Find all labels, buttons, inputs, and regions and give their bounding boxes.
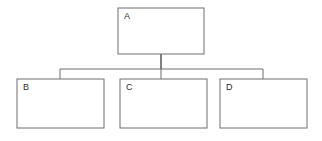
node-b-label: B [23, 82, 29, 92]
connector-group [60, 54, 263, 79]
node-a[interactable]: A [118, 8, 204, 54]
node-a-box[interactable] [118, 8, 204, 54]
node-b-box[interactable] [17, 79, 104, 128]
node-a-label: A [124, 11, 130, 21]
node-b[interactable]: B [17, 79, 104, 128]
node-d-label: D [226, 82, 233, 92]
node-c-label: C [126, 82, 133, 92]
diagram-canvas: A B C D [0, 0, 322, 141]
node-d[interactable]: D [220, 79, 307, 128]
connector-a-to-b [60, 54, 161, 79]
hierarchy-diagram: A B C D [0, 0, 322, 141]
node-c[interactable]: C [120, 79, 207, 128]
connector-a-to-d [161, 54, 263, 79]
node-c-box[interactable] [120, 79, 207, 128]
node-d-box[interactable] [220, 79, 307, 128]
